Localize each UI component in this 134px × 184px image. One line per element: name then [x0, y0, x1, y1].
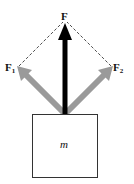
resultant-force-label: F: [61, 11, 68, 22]
force-f1-arrow: [17, 66, 65, 114]
dashed-line-f1-to-f: [19, 22, 63, 66]
f1-label-main: F: [5, 61, 12, 73]
mass-label: m: [60, 139, 68, 150]
force-f1-label: F1: [5, 62, 15, 75]
dashed-line-f2-to-f: [67, 22, 111, 66]
force-f2-arrow: [65, 66, 113, 114]
force-f2-label: F2: [113, 62, 123, 75]
force-diagram: [0, 0, 134, 184]
resultant-force-arrow: [58, 23, 72, 115]
f1-label-subscript: 1: [12, 67, 16, 75]
mass-label-text: m: [60, 138, 68, 150]
f2-label-main: F: [113, 61, 120, 73]
resultant-label-text: F: [61, 10, 68, 22]
f2-label-subscript: 2: [120, 67, 124, 75]
